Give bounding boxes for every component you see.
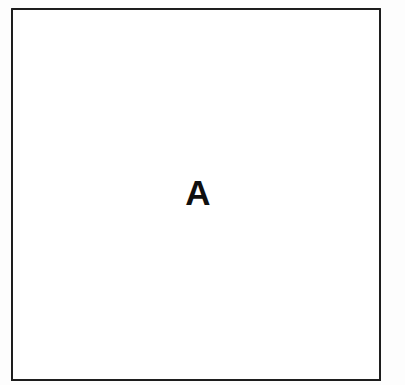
figure-canvas: A: [0, 0, 405, 385]
panel-label-a: A: [13, 10, 383, 383]
panel-box: A: [11, 8, 381, 381]
